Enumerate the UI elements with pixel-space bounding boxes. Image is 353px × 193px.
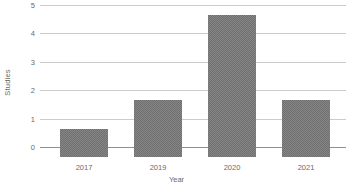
bar-2017[interactable] xyxy=(60,129,108,157)
x-axis-title: Year xyxy=(0,175,353,184)
y-tick-label-3: 3 xyxy=(31,57,35,66)
gridline-5 xyxy=(40,5,346,6)
bar-2020[interactable] xyxy=(208,15,256,157)
bar-2019[interactable] xyxy=(134,100,182,157)
plot-area: 0 1 2 3 4 5 2017 2019 2020 2021 xyxy=(40,5,346,157)
x-tick-label-2021: 2021 xyxy=(298,163,315,172)
gridline-4 xyxy=(40,33,346,34)
y-axis-title: Studies xyxy=(0,0,14,165)
y-tick-label-2: 2 xyxy=(31,86,35,95)
gridline-2 xyxy=(40,90,346,91)
x-tick-label-2017: 2017 xyxy=(76,163,93,172)
y-axis-title-text: Studies xyxy=(3,69,12,95)
bar-chart: Studies 0 1 2 3 4 5 2017 2019 2020 2021 … xyxy=(0,0,353,193)
bar-2021[interactable] xyxy=(282,100,330,157)
y-tick-label-1: 1 xyxy=(31,114,35,123)
y-tick-label-5: 5 xyxy=(31,1,35,10)
gridline-3 xyxy=(40,62,346,63)
x-tick-label-2020: 2020 xyxy=(224,163,241,172)
y-tick-label-0: 0 xyxy=(31,143,35,152)
x-tick-label-2019: 2019 xyxy=(150,163,167,172)
y-tick-label-4: 4 xyxy=(31,29,35,38)
